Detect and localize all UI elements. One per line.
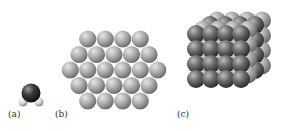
- sphere: [105, 77, 122, 94]
- sphere: [132, 92, 149, 109]
- sphere: [140, 77, 157, 94]
- sphere: [149, 61, 166, 78]
- sphere: [88, 77, 105, 94]
- label-c: (c): [177, 109, 189, 119]
- sphere: [114, 92, 131, 109]
- sphere: [140, 46, 157, 63]
- figure-canvas: [0, 0, 287, 131]
- hex-layer-b: [62, 30, 167, 109]
- sphere: [79, 92, 96, 109]
- sphere: [97, 92, 114, 109]
- sphere: [114, 61, 131, 78]
- label-b: (b): [55, 109, 68, 119]
- sphere: [88, 46, 105, 63]
- sphere: [105, 46, 122, 63]
- molecule-a: [19, 84, 44, 107]
- sphere: [123, 77, 140, 94]
- sphere: [114, 30, 131, 47]
- cubic-lattice-c: [187, 12, 271, 89]
- sphere: [232, 70, 250, 88]
- sphere: [97, 61, 114, 78]
- sphere: [132, 61, 149, 78]
- sphere: [70, 77, 87, 94]
- sphere: [123, 46, 140, 63]
- sphere: [97, 30, 114, 47]
- sphere: [132, 30, 149, 47]
- label-a: (a): [8, 109, 20, 119]
- sphere: [62, 61, 79, 78]
- sphere: [70, 46, 87, 63]
- sphere: [79, 30, 96, 47]
- sphere: [79, 61, 96, 78]
